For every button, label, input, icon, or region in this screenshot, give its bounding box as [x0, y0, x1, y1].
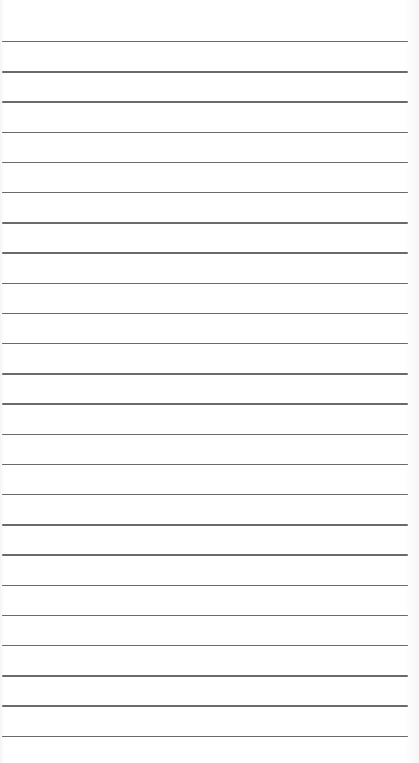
ruled-line — [2, 222, 408, 223]
ruled-line — [2, 524, 408, 525]
ruled-line — [2, 675, 408, 676]
ruled-line — [2, 615, 408, 616]
ruled-line — [2, 403, 408, 404]
ruled-line — [2, 434, 408, 435]
ruled-line — [2, 373, 408, 374]
ruled-line — [2, 283, 408, 284]
ruled-line — [2, 101, 408, 102]
ruled-line — [2, 313, 408, 314]
ruled-line — [2, 554, 408, 555]
ruled-line — [2, 494, 408, 495]
ruled-line — [2, 736, 408, 737]
ruled-line — [2, 343, 408, 344]
ruled-line — [2, 132, 408, 133]
ruled-line — [2, 192, 408, 193]
ruled-line — [2, 162, 408, 163]
ruled-line — [2, 252, 408, 253]
lined-paper — [0, 0, 419, 763]
ruled-line — [2, 464, 408, 465]
ruled-line — [2, 71, 408, 72]
ruled-line — [2, 705, 408, 706]
ruled-line — [2, 645, 408, 646]
ruled-line — [2, 585, 408, 586]
ruled-line — [2, 41, 408, 42]
